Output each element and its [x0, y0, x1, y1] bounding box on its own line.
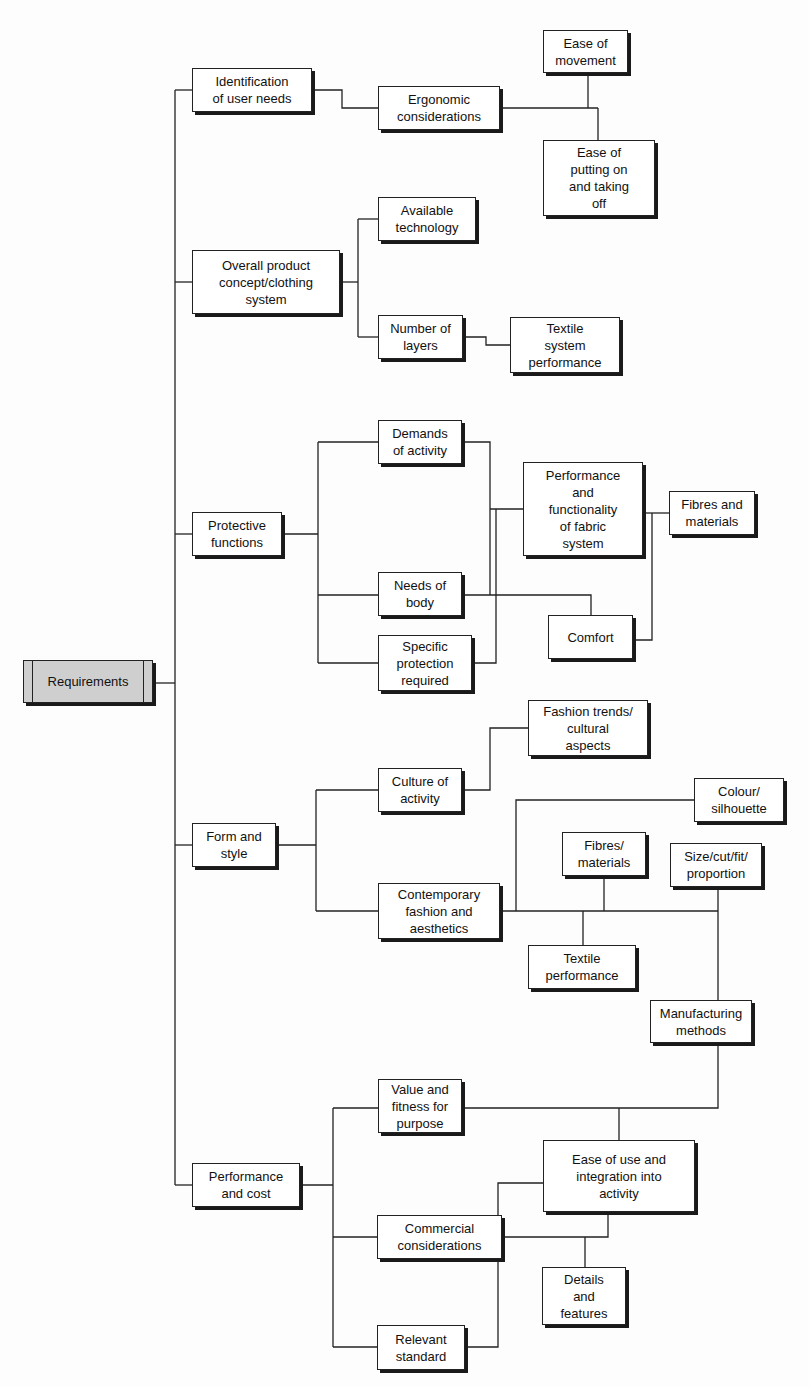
- node-commercial-considerations: Commercial considerations: [377, 1215, 502, 1259]
- node-textile-system-performance: Textile system performance: [510, 317, 620, 373]
- node-fibres-materials: Fibres/ materials: [562, 832, 646, 876]
- node-colour-silhouette: Colour/ silhouette: [694, 778, 784, 822]
- node-needs-of-body: Needs of body: [378, 572, 462, 616]
- node-fibres-and-materials: Fibres and materials: [669, 491, 755, 535]
- node-ease-of-putting-on: Ease of putting on and taking off: [543, 140, 655, 216]
- node-manufacturing-methods: Manufacturing methods: [650, 1000, 752, 1043]
- node-contemporary-fashion: Contemporary fashion and aesthetics: [378, 883, 500, 939]
- node-form-and-style: Form and style: [192, 823, 276, 867]
- node-demands-of-activity: Demands of activity: [378, 420, 462, 464]
- node-details-and-features: Details and features: [542, 1267, 626, 1325]
- node-performance-functionality-fabric: Performance and functionality of fabric …: [523, 462, 643, 556]
- requirements-tree-diagram: Requirements Identification of user need…: [0, 0, 809, 1387]
- node-textile-performance: Textile performance: [528, 945, 636, 989]
- node-number-of-layers: Number of layers: [378, 315, 463, 359]
- node-culture-of-activity: Culture of activity: [378, 768, 462, 812]
- node-value-and-fitness: Value and fitness for purpose: [378, 1079, 462, 1133]
- node-ease-of-use: Ease of use and integration into activit…: [543, 1140, 695, 1212]
- node-specific-protection-required: Specific protection required: [378, 635, 472, 691]
- node-available-technology: Available technology: [378, 197, 476, 241]
- node-relevant-standard: Relevant standard: [377, 1325, 465, 1370]
- node-protective-functions: Protective functions: [192, 512, 282, 556]
- node-identification-of-user-needs: Identification of user needs: [192, 68, 312, 112]
- node-ergonomic-considerations: Ergonomic considerations: [378, 86, 500, 130]
- node-requirements: Requirements: [23, 660, 153, 703]
- node-size-cut-fit-proportion: Size/cut/fit/ proportion: [670, 843, 762, 887]
- node-fashion-trends: Fashion trends/ cultural aspects: [528, 700, 648, 756]
- node-overall-product-concept: Overall product concept/clothing system: [192, 250, 340, 314]
- node-performance-and-cost: Performance and cost: [192, 1163, 300, 1207]
- node-ease-of-movement: Ease of movement: [543, 30, 628, 73]
- node-comfort: Comfort: [548, 615, 633, 659]
